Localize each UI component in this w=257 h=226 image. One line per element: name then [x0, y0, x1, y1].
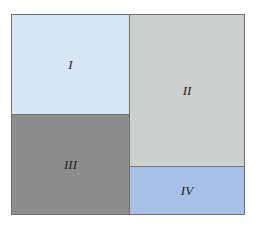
- region-i: I: [12, 15, 130, 115]
- region-iv: IV: [130, 167, 244, 214]
- partition-diagram: I II III IV: [11, 14, 245, 215]
- region-ii-label: II: [183, 83, 192, 99]
- region-iv-label: IV: [181, 183, 193, 199]
- region-i-label: I: [68, 57, 72, 73]
- region-iii-label: III: [64, 157, 77, 173]
- region-ii: II: [130, 15, 244, 167]
- region-iii: III: [12, 115, 130, 214]
